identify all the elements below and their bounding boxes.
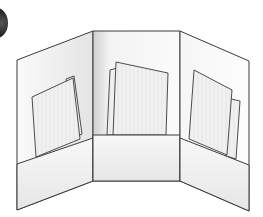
center-panel [93, 31, 180, 181]
trifold-folder-drawing [0, 0, 263, 217]
left-panel [17, 31, 93, 210]
right-panel [180, 31, 249, 211]
center-pocket [93, 135, 180, 181]
folder-illustration [0, 0, 263, 217]
paper-front [113, 62, 168, 135]
